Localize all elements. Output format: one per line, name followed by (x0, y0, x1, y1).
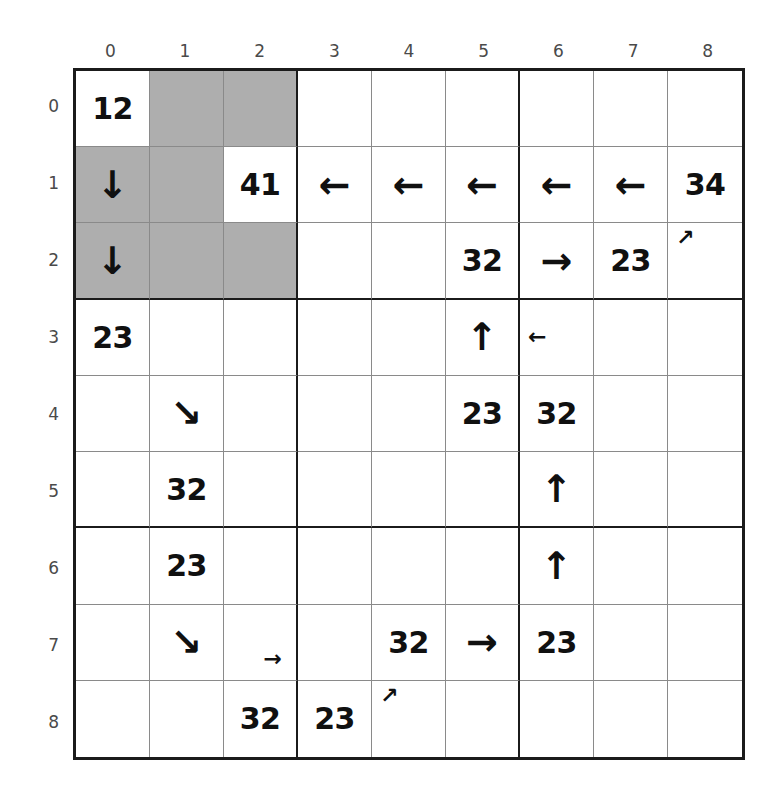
grid-cell-r0-c4[interactable] (372, 71, 446, 147)
grid-cell-r5-c5[interactable] (446, 452, 520, 528)
grid-cell-r6-c5[interactable] (446, 528, 520, 604)
grid-cell-r6-c4[interactable] (372, 528, 446, 604)
grid-cell-r4-c5[interactable]: 23 (446, 376, 520, 452)
grid-cell-r5-c7[interactable] (594, 452, 668, 528)
grid-cell-r2-c8[interactable]: ↗ (668, 223, 742, 299)
grid-cell-r2-c7[interactable]: 23 (594, 223, 668, 299)
grid-cell-r4-c6[interactable]: 32 (520, 376, 594, 452)
grid-cell-r3-c5[interactable]: ↑ (446, 300, 520, 376)
grid-cell-r8-c2[interactable]: 32 (224, 681, 298, 757)
grid-cell-r3-c1[interactable] (150, 300, 224, 376)
grid-cell-r4-c4[interactable] (372, 376, 446, 452)
grid-cell-r7-c2[interactable]: → (224, 605, 298, 681)
grid-cell-r5-c2[interactable] (224, 452, 298, 528)
cell-value-r8-c3: 23 (298, 681, 371, 757)
grid-cell-r0-c0[interactable]: 12 (76, 71, 150, 147)
grid-cell-r2-c0[interactable]: ↓ (76, 223, 150, 299)
cell-value-r6-c1: 23 (150, 528, 223, 603)
cell-value-r1-c8: 34 (668, 147, 742, 222)
grid-cell-r4-c7[interactable] (594, 376, 668, 452)
grid-cell-r4-c8[interactable] (668, 376, 742, 452)
grid-cell-r6-c0[interactable] (76, 528, 150, 604)
cell-value-r0-c0: 12 (76, 71, 149, 146)
grid-cell-r7-c3[interactable] (298, 605, 372, 681)
arrow-left-icon: ← (298, 147, 371, 222)
grid-cell-r2-c1[interactable] (150, 223, 224, 299)
grid-cell-r8-c7[interactable] (594, 681, 668, 757)
grid-cell-r2-c2[interactable] (224, 223, 298, 299)
grid-cell-r4-c0[interactable] (76, 376, 150, 452)
grid-cell-r5-c6[interactable]: ↑ (520, 452, 594, 528)
grid-cell-r4-c2[interactable] (224, 376, 298, 452)
grid-cell-r8-c5[interactable] (446, 681, 520, 757)
grid-cell-r1-c0[interactable]: ↓ (76, 147, 150, 223)
cell-value-r3-c0: 23 (76, 300, 149, 375)
grid-cell-r0-c8[interactable] (668, 71, 742, 147)
grid-cell-r0-c5[interactable] (446, 71, 520, 147)
cell-value-r7-c6: 23 (520, 605, 593, 680)
grid-cell-r4-c1[interactable]: ↘ (150, 376, 224, 452)
grid-cell-r7-c1[interactable]: ↘ (150, 605, 224, 681)
grid-cell-r3-c8[interactable] (668, 300, 742, 376)
grid-cell-r6-c8[interactable] (668, 528, 742, 604)
grid-cell-r6-c1[interactable]: 23 (150, 528, 224, 604)
grid-cell-r5-c4[interactable] (372, 452, 446, 528)
grid-cell-r8-c6[interactable] (520, 681, 594, 757)
column-header-6: 6 (521, 38, 596, 64)
grid-cell-r0-c7[interactable] (594, 71, 668, 147)
grid-cell-r0-c1[interactable] (150, 71, 224, 147)
grid-cell-r5-c8[interactable] (668, 452, 742, 528)
grid-cell-r1-c5[interactable]: ← (446, 147, 520, 223)
grid-cell-r1-c8[interactable]: 34 (668, 147, 742, 223)
grid-cell-r1-c1[interactable] (150, 147, 224, 223)
grid-cell-r3-c6[interactable]: ← (520, 300, 594, 376)
grid-cell-r6-c7[interactable] (594, 528, 668, 604)
grid-board: 12↓41←←←←←34↓32→23↗23↑←↘233232↑23↑↘→32→2… (73, 68, 745, 760)
grid-cell-r7-c6[interactable]: 23 (520, 605, 594, 681)
arrow-left-icon: ← (520, 300, 593, 375)
grid-cell-r3-c3[interactable] (298, 300, 372, 376)
grid-cell-r0-c2[interactable] (224, 71, 298, 147)
arrow-right-icon: → (224, 605, 296, 680)
grid-cell-r7-c0[interactable] (76, 605, 150, 681)
grid-cell-r8-c4[interactable]: ↗ (372, 681, 446, 757)
grid-cell-r7-c5[interactable]: → (446, 605, 520, 681)
grid-cell-r4-c3[interactable] (298, 376, 372, 452)
grid-cell-r3-c2[interactable] (224, 300, 298, 376)
grid-cell-r6-c2[interactable] (224, 528, 298, 604)
grid-cell-r5-c1[interactable]: 32 (150, 452, 224, 528)
grid-cell-r8-c0[interactable] (76, 681, 150, 757)
arrow-down-right-icon: ↘ (150, 376, 223, 451)
grid-cell-r0-c3[interactable] (298, 71, 372, 147)
row-header-4: 4 (25, 376, 65, 453)
grid-cell-r3-c0[interactable]: 23 (76, 300, 150, 376)
cell-value-r4-c5: 23 (446, 376, 518, 451)
column-header-0: 0 (73, 38, 148, 64)
arrow-down-icon: ↓ (76, 147, 149, 222)
grid-cell-r1-c4[interactable]: ← (372, 147, 446, 223)
grid-cell-r6-c6[interactable]: ↑ (520, 528, 594, 604)
grid-cell-r2-c4[interactable] (372, 223, 446, 299)
grid-cell-r3-c7[interactable] (594, 300, 668, 376)
grid-cell-r5-c3[interactable] (298, 452, 372, 528)
grid-cell-r1-c2[interactable]: 41 (224, 147, 298, 223)
arrow-up-icon: ↑ (446, 300, 518, 375)
grid-cell-r7-c7[interactable] (594, 605, 668, 681)
grid-cell-r1-c3[interactable]: ← (298, 147, 372, 223)
grid-cell-r5-c0[interactable] (76, 452, 150, 528)
grid-cell-r3-c4[interactable] (372, 300, 446, 376)
grid-cell-r0-c6[interactable] (520, 71, 594, 147)
grid-cell-r8-c3[interactable]: 23 (298, 681, 372, 757)
grid-cell-r8-c8[interactable] (668, 681, 742, 757)
grid-cell-r6-c3[interactable] (298, 528, 372, 604)
column-header-3: 3 (297, 38, 372, 64)
grid-cell-r1-c6[interactable]: ← (520, 147, 594, 223)
grid-cell-r8-c1[interactable] (150, 681, 224, 757)
grid-cell-r7-c8[interactable] (668, 605, 742, 681)
grid-cell-r2-c5[interactable]: 32 (446, 223, 520, 299)
grid-cell-r2-c3[interactable] (298, 223, 372, 299)
grid-cell-r1-c7[interactable]: ← (594, 147, 668, 223)
grid-cell-r7-c4[interactable]: 32 (372, 605, 446, 681)
grid-cell-r2-c6[interactable]: → (520, 223, 594, 299)
arrow-up-right-icon: ↗ (372, 681, 445, 757)
